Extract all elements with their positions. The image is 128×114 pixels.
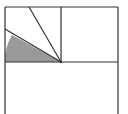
center-vertex-dot	[60, 61, 62, 63]
geometry-diagram	[0, 0, 128, 114]
